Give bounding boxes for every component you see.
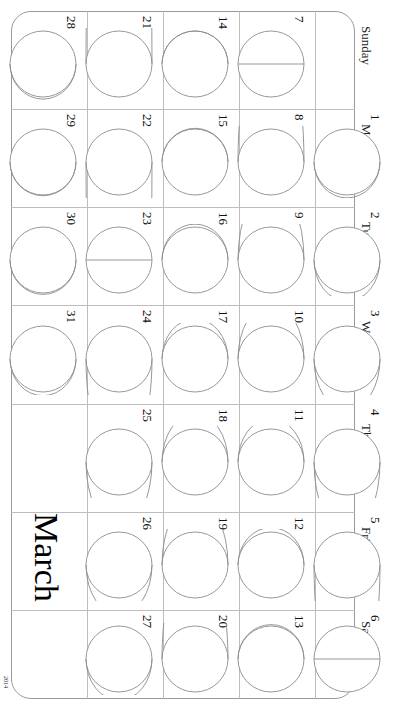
moon-phase-icon	[311, 323, 383, 395]
moon-phase-icon	[7, 323, 79, 395]
moon-phase-icon	[159, 28, 231, 100]
day-cell[interactable]: 30	[11, 207, 87, 305]
moon-phase-icon	[83, 28, 155, 100]
moon-phase-icon	[159, 126, 231, 198]
day-cell[interactable]: 13	[239, 610, 315, 699]
day-number: 9	[293, 212, 306, 219]
day-cell[interactable]: 17	[163, 305, 239, 404]
page-mark: 2014	[3, 676, 9, 688]
day-number: 25	[141, 409, 154, 422]
moon-phase-icon	[235, 623, 307, 695]
day-cell[interactable]: 8	[239, 109, 315, 207]
day-cell[interactable]: 19	[163, 512, 239, 610]
moon-phase-icon	[311, 224, 383, 296]
day-cell[interactable]: 16	[163, 207, 239, 305]
month-title: March	[29, 513, 63, 602]
moon-phase-icon	[311, 426, 383, 498]
day-number: 1	[369, 114, 382, 121]
moon-phase-icon	[83, 623, 155, 695]
day-cell[interactable]: 4	[315, 404, 391, 512]
day-cell[interactable]: 27	[87, 610, 163, 699]
day-number: 17	[217, 310, 230, 323]
day-number: 8	[293, 114, 306, 121]
day-cell[interactable]: 3	[315, 305, 391, 404]
day-cell[interactable]: 28	[11, 11, 87, 109]
day-cell[interactable]: 26	[87, 512, 163, 610]
day-cell[interactable]: 7	[239, 11, 315, 109]
moon-phase-icon	[83, 126, 155, 198]
moon-phase-icon	[7, 224, 79, 296]
day-cell[interactable]: 18	[163, 404, 239, 512]
day-cell[interactable]: 29	[11, 109, 87, 207]
day-number: 11	[293, 409, 306, 422]
day-cell[interactable]: 2	[315, 207, 391, 305]
day-cell[interactable]: 12	[239, 512, 315, 610]
moon-phase-icon	[83, 224, 155, 296]
weekday-label-sunday: Sunday	[360, 26, 373, 65]
moon-phase-icon	[159, 323, 231, 395]
day-number: 31	[65, 310, 78, 323]
moon-phase-icon	[235, 529, 307, 601]
day-cell[interactable]: 5	[315, 512, 391, 610]
day-number: 2	[369, 212, 382, 219]
moon-phase-icon	[159, 529, 231, 601]
day-cell[interactable]: 9	[239, 207, 315, 305]
moon-phase-icon	[159, 426, 231, 498]
moon-phase-icon	[7, 126, 79, 198]
day-number: 4	[369, 409, 382, 416]
day-number: 10	[293, 310, 306, 323]
day-cell[interactable]: 23	[87, 207, 163, 305]
day-cell[interactable]: 14	[163, 11, 239, 109]
moon-phase-icon	[311, 126, 383, 198]
moon-phase-icon	[159, 623, 231, 695]
moon-phase-icon	[83, 426, 155, 498]
moon-phase-icon	[235, 224, 307, 296]
moon-phase-icon	[83, 529, 155, 601]
day-number: 5	[369, 517, 382, 524]
day-number: 18	[217, 409, 230, 422]
day-number: 24	[141, 310, 154, 323]
moon-phase-icon	[235, 28, 307, 100]
moon-phase-icon	[235, 126, 307, 198]
day-cell[interactable]: 10	[239, 305, 315, 404]
calendar-page: SundayMondayTuesdayWednesdayThursdayFrid…	[0, 0, 403, 717]
day-cell[interactable]: 21	[87, 11, 163, 109]
day-cell[interactable]: 25	[87, 404, 163, 512]
moon-phase-icon	[235, 426, 307, 498]
moon-phase-icon	[159, 224, 231, 296]
day-cell[interactable]: 11	[239, 404, 315, 512]
moon-phase-icon	[311, 529, 383, 601]
day-number: 3	[369, 310, 382, 317]
moon-phase-icon	[311, 623, 383, 695]
day-number: 7	[293, 16, 306, 23]
day-cell[interactable]: 6	[315, 610, 391, 699]
day-number: 6	[369, 615, 382, 622]
day-cell[interactable]: 22	[87, 109, 163, 207]
day-cell[interactable]: 31	[11, 305, 87, 404]
moon-phase-icon	[7, 28, 79, 100]
moon-phase-icon	[83, 323, 155, 395]
day-cell[interactable]: 1	[315, 109, 391, 207]
moon-phase-icon	[235, 323, 307, 395]
day-cell[interactable]: 20	[163, 610, 239, 699]
day-cell[interactable]: 15	[163, 109, 239, 207]
day-cell[interactable]: 24	[87, 305, 163, 404]
